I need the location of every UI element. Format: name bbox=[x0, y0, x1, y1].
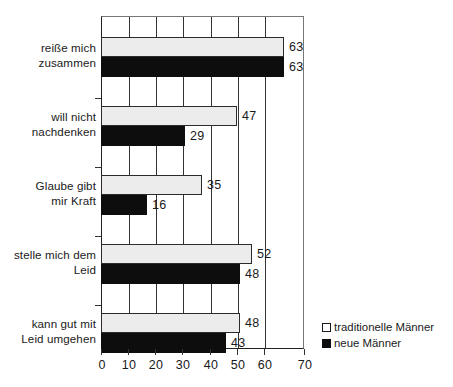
category-label-4: kann gut mit Leid umgehen bbox=[0, 317, 96, 346]
y-axis-tick-1 bbox=[95, 167, 101, 168]
bar-neue-3 bbox=[101, 264, 240, 284]
x-axis-tick-30 bbox=[182, 349, 183, 355]
legend-item-neue-maenner: neue Männer bbox=[322, 336, 434, 352]
bar-neue-1 bbox=[101, 126, 185, 146]
category-label-4-line1: kann gut mit bbox=[0, 317, 96, 332]
category-label-2-line1: Glaube gibt bbox=[0, 179, 96, 194]
legend-label-traditionelle-maenner: traditionelle Männer bbox=[334, 320, 434, 336]
legend-label-neue-maenner: neue Männer bbox=[334, 336, 401, 352]
category-label-2: Glaube gibt mir Kraft bbox=[0, 179, 96, 208]
bar-value-neue-2: 16 bbox=[152, 199, 166, 212]
bar-traditionelle-0 bbox=[101, 37, 284, 57]
bar-value-neue-1: 29 bbox=[190, 130, 204, 143]
category-label-4-line2: Leid umgehen bbox=[0, 332, 96, 347]
bar-value-traditionelle-3: 52 bbox=[257, 248, 271, 261]
category-label-0: reiße mich zusammen bbox=[0, 41, 96, 70]
bar-traditionelle-3 bbox=[101, 244, 252, 264]
x-axis-tick-40 bbox=[210, 349, 211, 355]
bar-value-traditionelle-2: 35 bbox=[207, 179, 221, 192]
category-label-1-line2: nachdenken bbox=[0, 125, 96, 140]
bar-traditionelle-1 bbox=[101, 106, 237, 126]
bar-traditionelle-4 bbox=[101, 313, 240, 333]
x-axis-label-60: 60 bbox=[245, 358, 285, 372]
y-axis-tick-2 bbox=[95, 236, 101, 237]
category-label-3-line2: Leid bbox=[0, 263, 96, 278]
horizontal-bar-chart: reiße mich zusammen 63 63 will nicht nac… bbox=[0, 0, 453, 387]
x-axis-tick-70 bbox=[304, 349, 305, 355]
bar-value-neue-4: 43 bbox=[231, 337, 245, 350]
x-axis-label-70: 70 bbox=[285, 358, 325, 372]
bar-traditionelle-2 bbox=[101, 175, 202, 195]
category-label-2-line2: mir Kraft bbox=[0, 194, 96, 209]
bar-neue-0 bbox=[101, 57, 284, 77]
category-label-0-line1: reiße mich bbox=[0, 41, 96, 56]
category-label-3-line1: stelle mich dem bbox=[0, 248, 96, 263]
category-label-3: stelle mich dem Leid bbox=[0, 248, 96, 277]
legend-item-traditionelle-maenner: traditionelle Männer bbox=[322, 320, 434, 336]
open-square-swatch-icon bbox=[322, 323, 331, 332]
bar-value-traditionelle-4: 48 bbox=[245, 317, 259, 330]
x-axis-tick-10 bbox=[128, 349, 129, 355]
x-axis-tick-20 bbox=[155, 349, 156, 355]
x-axis-tick-0 bbox=[101, 349, 102, 355]
bar-value-neue-0: 63 bbox=[289, 61, 303, 74]
x-axis-tick-60 bbox=[264, 349, 265, 355]
y-axis-tick-0 bbox=[95, 98, 101, 99]
bar-value-traditionelle-0: 63 bbox=[289, 41, 303, 54]
bar-neue-4 bbox=[101, 333, 226, 353]
y-axis-tick-3 bbox=[95, 305, 101, 306]
bar-value-neue-3: 48 bbox=[245, 268, 259, 281]
category-label-1-line1: will nicht bbox=[0, 110, 96, 125]
filled-square-swatch-icon bbox=[322, 339, 331, 348]
category-label-1: will nicht nachdenken bbox=[0, 110, 96, 139]
category-label-0-line2: zusammen bbox=[0, 56, 96, 71]
chart-legend: traditionelle Männer neue Männer bbox=[322, 320, 434, 351]
x-axis-tick-50 bbox=[237, 349, 238, 355]
bar-neue-2 bbox=[101, 195, 147, 215]
bar-value-traditionelle-1: 47 bbox=[242, 110, 256, 123]
